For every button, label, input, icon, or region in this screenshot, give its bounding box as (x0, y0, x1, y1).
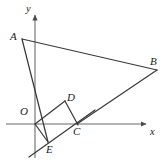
figure-lines-group (22, 39, 157, 157)
origin-label-O: O (20, 106, 28, 117)
y-axis-label: y (26, 4, 31, 15)
point-label-D: D (67, 92, 75, 103)
geometry-figure: A B C D E O x y (0, 0, 166, 164)
segment-DC (65, 101, 78, 125)
x-axis-label: x (150, 127, 155, 138)
point-label-A: A (10, 31, 17, 42)
geometry-canvas (0, 0, 166, 164)
segment-OD (35, 101, 65, 124)
line-EC-extended (29, 110, 95, 157)
point-label-B: B (150, 56, 157, 67)
point-label-E: E (46, 144, 53, 155)
segment-BC (77, 70, 157, 124)
point-label-C: C (73, 126, 80, 137)
segment-AB (22, 39, 157, 70)
